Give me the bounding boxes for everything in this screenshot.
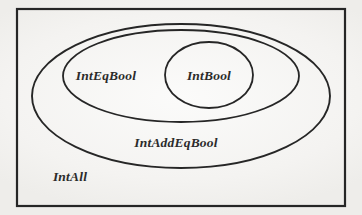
label-intaddeqbool: IntAddEqBool xyxy=(133,135,217,150)
label-intall: IntAll xyxy=(52,169,87,184)
label-intbool: IntBool xyxy=(186,68,231,83)
euler-diagram-figure: IntEqBool IntBool IntAddEqBool IntAll xyxy=(0,0,362,215)
set-containment-diagram: IntEqBool IntBool IntAddEqBool IntAll xyxy=(0,0,362,215)
label-inteqbool: IntEqBool xyxy=(75,68,136,83)
